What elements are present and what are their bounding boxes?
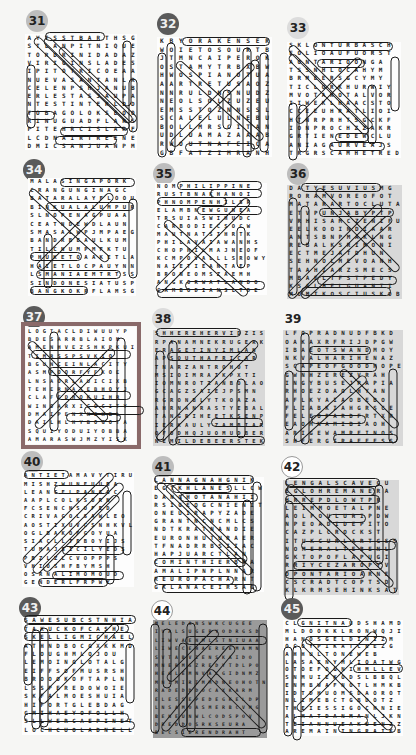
grid-letter[interactable]: S bbox=[168, 355, 175, 363]
grid-letter[interactable]: N bbox=[250, 347, 257, 355]
grid-letter[interactable]: N bbox=[254, 645, 261, 653]
grid-letter[interactable]: G bbox=[22, 579, 29, 587]
grid-letter[interactable]: M bbox=[363, 666, 371, 674]
grid-letter[interactable]: S bbox=[119, 538, 126, 546]
grid-letter[interactable]: T bbox=[311, 92, 319, 100]
grid-letter[interactable]: S bbox=[315, 635, 323, 643]
grid-letter[interactable]: L bbox=[360, 108, 368, 116]
grid-letter[interactable]: T bbox=[353, 275, 361, 283]
grid-letter[interactable]: T bbox=[240, 730, 247, 738]
grid-letter[interactable] bbox=[252, 271, 259, 279]
grid-letter[interactable]: G bbox=[307, 429, 315, 437]
grid-letter[interactable]: L bbox=[360, 92, 368, 100]
grid-letter[interactable]: A bbox=[287, 141, 295, 149]
grid-letter[interactable]: O bbox=[254, 662, 261, 670]
grid-letter[interactable]: C bbox=[70, 718, 78, 726]
grid-letter[interactable]: Y bbox=[360, 75, 368, 83]
grid-letter[interactable] bbox=[126, 693, 134, 701]
grid-letter[interactable]: J bbox=[220, 388, 227, 396]
grid-letter[interactable]: R bbox=[331, 371, 339, 379]
grid-letter[interactable]: T bbox=[339, 697, 347, 705]
grid-letter[interactable]: E bbox=[323, 674, 331, 682]
grid-letter[interactable]: M bbox=[300, 546, 308, 554]
grid-letter[interactable]: E bbox=[208, 584, 216, 592]
grid-letter[interactable]: E bbox=[152, 485, 160, 493]
grid-letter[interactable]: B bbox=[177, 223, 184, 231]
grid-letter[interactable]: L bbox=[126, 727, 134, 735]
grid-letter[interactable]: N bbox=[207, 730, 214, 738]
grid-letter[interactable]: L bbox=[85, 360, 92, 368]
grid-letter[interactable]: K bbox=[220, 396, 227, 404]
grid-letter[interactable] bbox=[391, 521, 399, 529]
grid-letter[interactable]: L bbox=[371, 666, 379, 674]
grid-letter[interactable]: E bbox=[234, 140, 244, 149]
grid-letter[interactable]: E bbox=[216, 559, 224, 567]
grid-letter[interactable]: A bbox=[307, 721, 315, 729]
grid-letter[interactable]: A bbox=[227, 654, 234, 662]
grid-letter[interactable] bbox=[254, 620, 261, 628]
grid-letter[interactable]: R bbox=[368, 50, 376, 58]
grid-letter[interactable]: V bbox=[295, 92, 303, 100]
grid-letter[interactable]: H bbox=[216, 576, 224, 584]
grid-letter[interactable]: I bbox=[300, 562, 308, 570]
grid-letter[interactable]: Z bbox=[128, 51, 137, 59]
grid-letter[interactable]: D bbox=[120, 100, 129, 108]
grid-letter[interactable]: A bbox=[283, 651, 291, 659]
grid-letter[interactable] bbox=[391, 480, 399, 488]
grid-letter[interactable]: E bbox=[205, 338, 212, 346]
grid-letter[interactable]: T bbox=[114, 402, 121, 410]
grid-letter[interactable]: L bbox=[200, 183, 207, 191]
grid-letter[interactable]: S bbox=[180, 696, 187, 704]
grid-letter[interactable]: T bbox=[153, 413, 160, 421]
grid-letter[interactable]: S bbox=[153, 330, 160, 338]
grid-letter[interactable]: D bbox=[291, 690, 299, 698]
grid-letter[interactable]: S bbox=[55, 352, 62, 360]
grid-letter[interactable]: C bbox=[180, 645, 187, 653]
grid-letter[interactable] bbox=[256, 551, 264, 559]
grid-letter[interactable]: I bbox=[107, 436, 114, 444]
grid-letter[interactable]: O bbox=[361, 258, 369, 266]
grid-letter[interactable]: D bbox=[180, 721, 187, 729]
grid-letter[interactable]: A bbox=[222, 271, 229, 279]
grid-letter[interactable]: W bbox=[200, 279, 207, 287]
grid-letter[interactable]: M bbox=[200, 637, 207, 645]
grid-letter[interactable]: E bbox=[339, 371, 347, 379]
grid-letter[interactable] bbox=[394, 209, 402, 217]
grid-letter[interactable]: I bbox=[34, 117, 43, 125]
grid-letter[interactable]: R bbox=[128, 75, 137, 83]
grid-letter[interactable]: E bbox=[363, 355, 371, 363]
grid-letter[interactable]: S bbox=[48, 335, 55, 343]
grid-letter[interactable]: I bbox=[99, 335, 106, 343]
grid-letter[interactable]: A bbox=[347, 438, 355, 446]
grid-letter[interactable]: G bbox=[320, 141, 328, 149]
grid-letter[interactable]: S bbox=[167, 63, 177, 72]
grid-letter[interactable]: G bbox=[291, 488, 299, 496]
grid-letter[interactable]: A bbox=[192, 551, 200, 559]
grid-letter[interactable]: A bbox=[205, 405, 212, 413]
grid-letter[interactable]: R bbox=[248, 567, 256, 575]
grid-letter[interactable]: Y bbox=[363, 388, 371, 396]
grid-letter[interactable]: B bbox=[323, 697, 331, 705]
grid-letter[interactable]: C bbox=[328, 150, 336, 158]
grid-letter[interactable] bbox=[393, 117, 401, 125]
grid-letter[interactable]: T bbox=[386, 193, 394, 201]
grid-letter[interactable]: T bbox=[97, 271, 105, 279]
grid-letter[interactable]: M bbox=[344, 150, 352, 158]
grid-letter[interactable]: O bbox=[82, 505, 89, 513]
grid-letter[interactable]: B bbox=[320, 234, 328, 242]
grid-letter[interactable]: O bbox=[331, 651, 339, 659]
grid-letter[interactable]: N bbox=[43, 288, 51, 296]
grid-letter[interactable]: O bbox=[67, 288, 75, 296]
grid-letter[interactable]: I bbox=[379, 728, 387, 736]
grid-letter[interactable]: R bbox=[316, 546, 324, 554]
grid-letter[interactable]: T bbox=[22, 625, 30, 633]
grid-letter[interactable] bbox=[260, 730, 267, 738]
grid-letter[interactable]: S bbox=[352, 117, 360, 125]
grid-letter[interactable]: R bbox=[228, 438, 235, 446]
grid-letter[interactable]: H bbox=[291, 438, 299, 446]
grid-letter[interactable]: D bbox=[233, 671, 240, 679]
grid-letter[interactable]: L bbox=[42, 42, 51, 50]
grid-letter[interactable]: W bbox=[167, 71, 177, 80]
grid-letter[interactable]: D bbox=[382, 579, 390, 587]
grid-letter[interactable]: S bbox=[347, 690, 355, 698]
